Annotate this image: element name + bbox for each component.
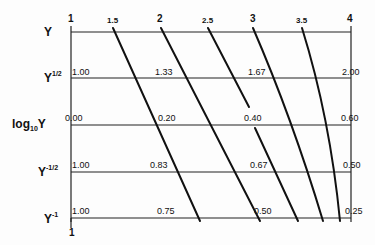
exponent: -1/2 xyxy=(46,164,58,171)
exponent: 1/2 xyxy=(52,70,62,77)
value-label: 0.67 xyxy=(250,161,268,170)
exponent: -1 xyxy=(52,211,58,218)
row-label-sqrt: Y1/2 xyxy=(44,72,62,84)
value-label: 1.00 xyxy=(72,207,90,216)
value-label: 0.50 xyxy=(254,207,272,216)
top-scale-label: 4 xyxy=(347,14,353,24)
value-label: 1.67 xyxy=(248,68,266,77)
subscript: 10 xyxy=(30,125,38,132)
value-label: 0.75 xyxy=(157,207,175,216)
transformation-nomograph: 1 1.5 2 2.5 3 3.5 4 Y Y1/2 log10Y Y-1/2 … xyxy=(0,0,375,245)
top-scale-label: 2.5 xyxy=(202,17,213,25)
value-label: 0.60 xyxy=(341,114,359,123)
row-label-log: log10Y xyxy=(12,118,46,130)
curve-2-5-upper xyxy=(208,28,249,107)
top-scale-label: 2 xyxy=(157,14,163,24)
bottom-scale-label: 1 xyxy=(69,228,75,238)
value-label: 1.00 xyxy=(72,161,90,170)
value-label: 0.25 xyxy=(345,207,363,216)
value-label: 1.33 xyxy=(155,68,173,77)
top-scale-label: 1.5 xyxy=(107,17,118,25)
value-label: 2.00 xyxy=(342,68,360,77)
row-label-y: Y xyxy=(44,26,52,38)
value-label: 0.40 xyxy=(244,114,262,123)
nomograph-lines xyxy=(0,0,375,245)
top-scale-label: 3.5 xyxy=(296,17,307,25)
value-label: 0.50 xyxy=(343,161,361,170)
top-scale-label: 1 xyxy=(68,14,74,24)
row-label-inv: Y-1 xyxy=(44,213,58,225)
value-label: 0.00 xyxy=(65,114,83,123)
value-label: 0.20 xyxy=(158,114,176,123)
value-label: 0.83 xyxy=(150,161,168,170)
row-label-invsqrt: Y-1/2 xyxy=(38,166,58,178)
top-scale-label: 3 xyxy=(250,14,256,24)
value-label: 1.00 xyxy=(72,68,90,77)
